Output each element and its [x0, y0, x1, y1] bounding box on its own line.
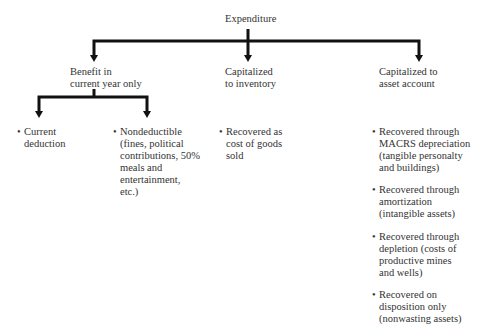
node-benefit-current-year: Benefit in current year only — [70, 66, 142, 90]
item-disposition: • Recovered ondisposition only(nonwastin… — [372, 289, 462, 325]
item-macrs-depreciation: • Recovered throughMACRS depreciation(ta… — [372, 126, 470, 174]
bullet-icon: • — [219, 126, 223, 138]
bullet-icon: • — [372, 231, 376, 243]
item-nondeductible: • Nondeductible(fines, political contrib… — [113, 126, 200, 198]
bullet-icon: • — [372, 126, 376, 138]
bullet-icon: • — [372, 289, 376, 301]
bullet-icon: • — [372, 184, 376, 196]
bullet-icon: • — [17, 126, 21, 138]
item-amortization: • Recovered throughamortization(intangib… — [372, 184, 459, 220]
node-capitalized-asset: Capitalized to asset account — [379, 66, 438, 90]
item-cost-of-goods-sold: • Recovered ascost of goodssold — [219, 126, 282, 162]
item-current-deduction: • Currentdeduction — [17, 126, 65, 150]
item-depletion: • Recovered throughdepletion (costs ofpr… — [372, 231, 459, 279]
node-capitalized-inventory: Capitalized to inventory — [225, 66, 276, 90]
root-node: Expenditure — [225, 13, 276, 25]
bullet-icon: • — [113, 126, 117, 138]
